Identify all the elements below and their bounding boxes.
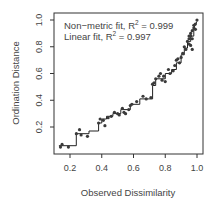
data-point	[183, 45, 186, 48]
data-point	[80, 133, 83, 136]
data-point	[118, 113, 121, 116]
data-point	[75, 132, 78, 135]
y-axis-label: Ordination Distance	[10, 41, 21, 124]
data-point	[181, 52, 184, 55]
y-axis-ticks: 0.20.40.60.81.0	[34, 14, 54, 134]
data-point	[153, 81, 156, 84]
data-point	[67, 145, 70, 148]
data-point	[160, 79, 163, 82]
data-point	[167, 68, 170, 71]
data-point	[110, 115, 113, 118]
annotation-linear: Linear fit, R2 = 0.997	[64, 30, 151, 42]
data-point	[191, 37, 194, 40]
data-point	[121, 107, 124, 110]
data-point	[141, 95, 144, 98]
data-point	[176, 57, 179, 60]
data-point	[97, 121, 100, 124]
data-point	[149, 96, 152, 99]
x-tick-label: 1.0	[191, 163, 204, 173]
data-point	[184, 48, 187, 51]
data-point	[164, 80, 167, 83]
x-axis-label: Observed Dissimilarity	[81, 187, 176, 198]
data-point	[162, 75, 165, 78]
data-point	[103, 124, 106, 127]
y-tick-label: 0.4	[34, 94, 44, 107]
data-point	[86, 135, 89, 138]
data-point	[99, 117, 102, 120]
x-tick-label: 0.6	[127, 163, 140, 173]
data-point	[124, 112, 127, 115]
data-point	[172, 69, 175, 72]
data-point	[168, 72, 171, 75]
x-tick-label: 0.2	[64, 163, 77, 173]
data-point	[154, 77, 157, 80]
data-point	[178, 61, 181, 64]
y-tick-label: 0.2	[34, 121, 44, 134]
data-point	[195, 18, 198, 21]
data-point	[186, 40, 189, 43]
x-axis-ticks: 0.20.40.60.81.0	[64, 154, 204, 173]
data-point	[102, 119, 105, 122]
data-point	[187, 34, 190, 37]
data-point	[157, 75, 160, 78]
data-point	[191, 29, 194, 32]
x-tick-label: 0.4	[95, 163, 108, 173]
data-point	[130, 103, 133, 106]
y-tick-label: 0.6	[34, 67, 44, 80]
data-point	[60, 143, 63, 146]
x-tick-label: 0.8	[159, 163, 172, 173]
data-point	[78, 128, 81, 131]
data-point	[191, 48, 194, 51]
data-point	[113, 111, 116, 114]
data-point	[107, 116, 110, 119]
data-point	[189, 32, 192, 35]
data-point	[194, 28, 197, 31]
shepard-plot: 0.20.40.60.81.0 0.20.40.60.81.0 Non−metr…	[0, 0, 215, 206]
data-point	[59, 145, 62, 148]
data-point	[135, 100, 138, 103]
y-tick-label: 0.8	[34, 40, 44, 53]
y-tick-label: 1.0	[34, 14, 44, 27]
data-point	[173, 64, 176, 67]
data-point	[189, 44, 192, 47]
data-point	[194, 22, 197, 25]
data-point	[127, 108, 130, 111]
data-point	[145, 97, 148, 100]
data-point	[180, 56, 183, 59]
data-point	[159, 72, 162, 75]
annotation-nonmetric: Non−metric fit, R2 = 0.999	[64, 19, 173, 31]
